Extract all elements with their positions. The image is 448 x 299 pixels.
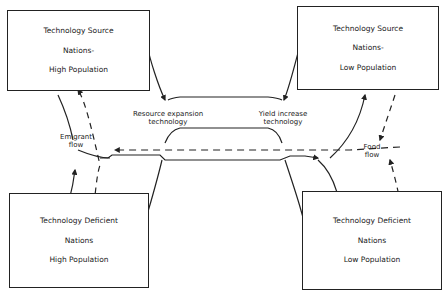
label-food-flow: Food flow [360, 143, 384, 159]
box-tech-source-low-pop: Technology Source Nations- Low Populatio… [297, 6, 439, 90]
label-line: Food [360, 143, 384, 151]
label-line: technology [248, 118, 318, 126]
label-emigrant-flow: Emigrant flow [58, 133, 94, 149]
label-line: technology [133, 118, 203, 126]
food-flow-line [115, 147, 400, 150]
tech-flow-line [100, 155, 318, 160]
box-line: High Population [49, 256, 108, 264]
box-line: Nations [65, 237, 93, 245]
box-tech-deficient-low-pop: Technology Deficient Nations Low Populat… [302, 191, 442, 290]
box-line: Nations- [63, 47, 94, 55]
box-line: Low Population [340, 64, 397, 72]
box-line: High Population [49, 66, 108, 74]
lower-bracket [165, 128, 282, 143]
label-line: flow [58, 141, 94, 149]
box-line: Technology Deficient [333, 217, 411, 225]
box-line: Technology Deficient [40, 217, 118, 225]
box-line: Technology Source [333, 25, 403, 33]
emigrant-to-flow [78, 150, 110, 158]
box-tech-source-high-pop: Technology Source Nations- High Populati… [7, 10, 150, 91]
label-resource-expansion: Resource expansion technology [133, 110, 203, 126]
box-line: Nations [358, 237, 386, 245]
label-line: flow [360, 151, 384, 159]
box-line: Low Population [344, 256, 401, 264]
box-tech-deficient-high-pop: Technology Deficient Nations High Popula… [9, 193, 149, 288]
label-yield-increase: Yield increase technology [248, 110, 318, 126]
box-line: Nations- [352, 44, 383, 52]
label-line: Emigrant [58, 133, 94, 141]
food-flow-dashed-top [380, 95, 395, 140]
box-line: Technology Source [43, 27, 113, 35]
upper-bracket [168, 97, 282, 100]
label-line: Resource expansion [133, 110, 203, 118]
label-line: Yield increase [248, 110, 318, 118]
